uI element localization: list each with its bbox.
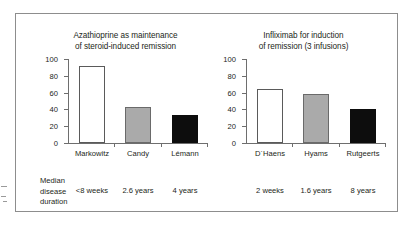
x-label-dhaens: D´Haens [244, 149, 296, 159]
panel-title-infliximab: Infliximab for induction of remission (3… [216, 30, 391, 52]
x-label-lemann: Lémann [159, 149, 211, 159]
median-disease-duration-label: Median disease duration [40, 176, 67, 208]
x-tick [161, 143, 162, 147]
y-tick: 60 [242, 93, 246, 94]
page-edge-mark [1, 196, 6, 197]
median-caption-line: Median [40, 176, 67, 187]
bars-layer [69, 59, 208, 143]
x-axis-labels-infliximab: D´Haens Hyams Rutgeerts [247, 149, 386, 161]
y-tick: 40 [242, 109, 246, 110]
x-label-markowitz: Markowitz [66, 149, 118, 159]
duration-candy: 2.6 years [112, 186, 164, 196]
duration-lemann: 4 years [159, 186, 211, 196]
x-label-candy: Candy [112, 149, 164, 159]
y-tick: 20 [242, 126, 246, 127]
y-tick-label: 80 [50, 71, 58, 80]
y-tick: 40 [64, 109, 68, 110]
duration-dhaens: 2 weeks [244, 186, 296, 196]
duration-labels-infliximab: 2 weeks 1.6 years 8 years [247, 186, 386, 198]
y-tick-label: 100 [223, 55, 236, 64]
x-tick [385, 143, 386, 147]
y-tick-label: 40 [228, 105, 236, 114]
chart-panel-infliximab: Infliximab for induction of remission (3… [216, 14, 391, 213]
median-caption-line: duration [40, 197, 67, 208]
x-axis-line [68, 143, 208, 144]
y-tick-label: 40 [50, 105, 58, 114]
x-tick [339, 143, 340, 147]
y-tick-label: 60 [228, 88, 236, 97]
y-tick-label: 20 [228, 122, 236, 131]
y-tick: 100 [64, 59, 68, 60]
x-label-rutgeerts: Rutgeerts [337, 149, 389, 159]
y-tick: 100 [242, 59, 246, 60]
panel-title-line: of steroid-induced remission [38, 41, 213, 52]
x-label-hyams: Hyams [290, 149, 342, 159]
page-edge-mark [3, 201, 7, 202]
x-tick [114, 143, 115, 147]
x-tick [207, 143, 208, 147]
plot-area-infliximab: 100 80 60 40 20 0 [246, 59, 386, 143]
panel-title-line: Azathioprine as maintenance [38, 30, 213, 41]
median-caption-line: disease [40, 187, 67, 198]
y-tick: 0 [242, 143, 246, 144]
panel-title-azathioprine: Azathioprine as maintenance of steroid-i… [38, 30, 213, 52]
y-tick-label: 20 [50, 122, 58, 131]
y-tick: 60 [64, 93, 68, 94]
y-tick-label: 0 [54, 139, 58, 148]
figure-frame: Azathioprine as maintenance of steroid-i… [15, 13, 398, 212]
x-axis-line [246, 143, 386, 144]
y-tick: 80 [64, 76, 68, 77]
y-tick: 0 [64, 143, 68, 144]
page-edge-mark [1, 186, 7, 187]
y-tick-label: 80 [228, 71, 236, 80]
y-tick-label: 0 [232, 139, 236, 148]
duration-hyams: 1.6 years [290, 186, 342, 196]
x-tick [292, 143, 293, 147]
bar-rutgeerts [350, 109, 376, 143]
panel-title-line: of remission (3 infusions) [216, 41, 391, 52]
x-axis-labels-azathioprine: Markowitz Candy Lémann [69, 149, 208, 161]
duration-markowitz: <8 weeks [66, 186, 118, 196]
bar-hyams [303, 94, 329, 143]
y-tick: 20 [64, 126, 68, 127]
y-tick: 80 [242, 76, 246, 77]
bar-dhaens [257, 89, 283, 143]
y-tick-label: 100 [45, 55, 58, 64]
duration-rutgeerts: 8 years [337, 186, 389, 196]
bar-lemann [172, 115, 198, 143]
plot-area-azathioprine: 100 80 60 40 20 0 [68, 59, 208, 143]
panel-title-line: Infliximab for induction [216, 30, 391, 41]
bar-candy [125, 107, 151, 143]
bars-layer [247, 59, 386, 143]
bar-markowitz [79, 66, 105, 143]
duration-labels-azathioprine: <8 weeks 2.6 years 4 years [69, 186, 208, 198]
y-tick-label: 60 [50, 88, 58, 97]
